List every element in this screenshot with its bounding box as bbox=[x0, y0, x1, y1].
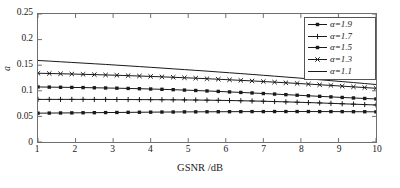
data-point-marker bbox=[193, 97, 198, 102]
data-point-marker bbox=[148, 97, 153, 102]
x-tick-label: 9 bbox=[337, 145, 342, 155]
data-point-marker bbox=[295, 100, 300, 105]
data-point-marker bbox=[351, 102, 356, 107]
data-point-marker bbox=[363, 97, 366, 100]
data-point-marker bbox=[250, 91, 253, 94]
legend-entry-label: α=1.9 bbox=[328, 20, 352, 29]
series-line-0 bbox=[38, 87, 376, 99]
data-point-marker bbox=[250, 110, 253, 113]
data-point-marker bbox=[362, 102, 367, 107]
data-point-marker bbox=[47, 97, 52, 102]
data-point-marker bbox=[38, 97, 41, 102]
data-point-marker bbox=[48, 85, 51, 88]
data-point-marker bbox=[115, 87, 118, 90]
data-point-marker bbox=[38, 85, 40, 88]
data-point-marker bbox=[183, 88, 186, 91]
data-point-marker bbox=[272, 99, 277, 104]
data-point-marker bbox=[114, 97, 119, 102]
x-tick-label: 5 bbox=[186, 145, 191, 155]
data-point-marker bbox=[341, 96, 344, 99]
data-point-marker bbox=[317, 100, 322, 105]
x-tick-label: 2 bbox=[72, 145, 77, 155]
data-point-marker bbox=[59, 86, 62, 89]
data-point-marker bbox=[307, 94, 310, 97]
data-point-marker bbox=[262, 110, 265, 113]
legend-entry-label: α=1.3 bbox=[328, 55, 352, 64]
legend-line-sample bbox=[307, 31, 328, 42]
data-point-marker bbox=[318, 110, 321, 113]
data-point-marker bbox=[373, 102, 376, 107]
data-point-marker bbox=[93, 86, 96, 89]
data-point-marker bbox=[70, 86, 73, 89]
data-point-marker bbox=[80, 97, 85, 102]
data-point-marker bbox=[216, 98, 221, 103]
x-tick-label: 6 bbox=[224, 145, 229, 155]
data-point-marker bbox=[283, 99, 288, 104]
data-point-marker bbox=[104, 86, 107, 89]
legend-entry[interactable]: α=1.7 bbox=[307, 31, 373, 43]
legend-line-sample bbox=[307, 54, 328, 65]
data-point-marker bbox=[295, 94, 298, 97]
data-point-marker bbox=[172, 88, 175, 91]
y-tick-label: 0.2 bbox=[21, 34, 33, 44]
y-tick-label: 0 bbox=[28, 138, 33, 148]
data-point-marker bbox=[228, 110, 231, 113]
data-point-marker bbox=[318, 95, 321, 98]
data-point-marker bbox=[363, 110, 366, 113]
data-point-marker bbox=[205, 110, 208, 113]
data-point-marker bbox=[48, 111, 51, 114]
data-point-marker bbox=[126, 97, 131, 102]
legend-entry[interactable]: α=1.5 bbox=[307, 42, 373, 54]
data-point-marker bbox=[126, 111, 129, 114]
data-point-marker bbox=[239, 110, 242, 113]
x-tick-label: 1 bbox=[35, 145, 40, 155]
data-point-marker bbox=[137, 97, 142, 102]
data-point-marker bbox=[352, 96, 355, 99]
data-point-marker bbox=[81, 86, 84, 89]
data-point-marker bbox=[249, 98, 254, 103]
data-point-marker bbox=[69, 97, 74, 102]
data-point-marker bbox=[160, 88, 163, 91]
data-point-marker bbox=[217, 90, 220, 93]
data-point-marker bbox=[138, 111, 141, 114]
x-axis-tick-labels: 12345678910 bbox=[37, 145, 377, 159]
data-point-marker bbox=[374, 97, 376, 100]
data-point-marker bbox=[328, 101, 333, 106]
data-point-marker bbox=[194, 89, 197, 92]
y-tick-label: 0.25 bbox=[17, 8, 33, 18]
data-point-marker bbox=[340, 101, 345, 106]
x-tick-label: 7 bbox=[261, 145, 266, 155]
x-axis-title: GSNR /dB bbox=[0, 162, 400, 173]
data-point-marker bbox=[352, 110, 355, 113]
data-point-marker bbox=[341, 110, 344, 113]
data-point-marker bbox=[228, 90, 231, 93]
data-point-marker bbox=[103, 97, 108, 102]
data-point-marker bbox=[227, 98, 232, 103]
legend-line-sample bbox=[307, 19, 328, 30]
data-point-marker bbox=[104, 111, 107, 114]
legend-entry[interactable]: α=1.3 bbox=[307, 54, 373, 66]
data-point-marker bbox=[306, 100, 311, 105]
data-point-marker bbox=[81, 111, 84, 114]
data-point-marker bbox=[238, 98, 243, 103]
data-point-marker bbox=[138, 87, 141, 90]
data-point-marker bbox=[171, 97, 176, 102]
data-point-marker bbox=[59, 111, 62, 114]
legend-line-sample bbox=[307, 66, 328, 77]
data-point-marker bbox=[115, 111, 118, 114]
data-point-marker bbox=[284, 110, 287, 113]
data-point-marker bbox=[149, 110, 152, 113]
legend-entry[interactable]: α=1.9 bbox=[307, 19, 373, 31]
chart-figure: a 00.050.10.150.20.25 12345678910 GSNR /… bbox=[0, 0, 400, 188]
legend-entry-label: α=1.1 bbox=[328, 67, 352, 76]
data-point-marker bbox=[329, 95, 332, 98]
data-point-marker bbox=[239, 91, 242, 94]
legend-entry-label: α=1.7 bbox=[328, 32, 352, 41]
legend-entry[interactable]: α=1.1 bbox=[307, 65, 373, 77]
data-point-marker bbox=[38, 112, 40, 115]
data-point-marker bbox=[182, 97, 187, 102]
x-tick-label: 8 bbox=[299, 145, 304, 155]
legend-entry-label: α=1.5 bbox=[328, 43, 352, 52]
data-point-marker bbox=[126, 87, 129, 90]
data-point-marker bbox=[58, 97, 63, 102]
